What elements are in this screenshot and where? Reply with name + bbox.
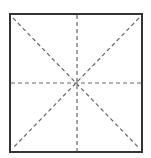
square-diagram	[0, 0, 151, 158]
dashed-guide-lines	[11, 15, 141, 151]
